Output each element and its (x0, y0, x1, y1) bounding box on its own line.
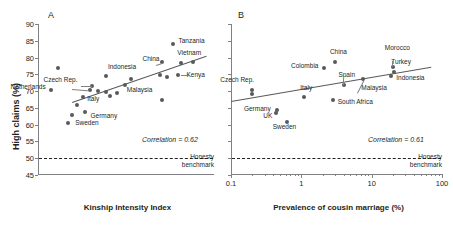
panel-b-x-axis (231, 174, 442, 175)
panel-b-x-tick-minor (426, 174, 427, 176)
panel-b-x-tick-minor (368, 174, 369, 176)
panel-a-y-axis (38, 24, 39, 175)
panel-a-y-tick (35, 58, 38, 59)
panel-b-point-label: Turkey (391, 58, 411, 65)
panel-a: A High claims (%) HonestybenchmarkCorrel… (0, 0, 226, 236)
panel-a-y-tick-label: 50 (18, 154, 34, 163)
panel-a-honesty-benchmark-label: Honestybenchmark (168, 153, 214, 169)
panel-b-x-tick-label: 0.1 (219, 179, 243, 188)
panel-a-y-tick (35, 91, 38, 92)
panel-b-point-label: Sweden (273, 123, 297, 130)
panel-a-y-tick (35, 158, 38, 159)
panel-a-leader-china (156, 63, 163, 66)
panel-a-y-tick (35, 141, 38, 142)
panel-a-plot-area: HonestybenchmarkCorrelation = 0.62Nether… (38, 24, 214, 175)
panel-a-point-label: Indonesia (108, 63, 136, 70)
panel-b-data-point (302, 95, 306, 99)
panel-b-trendline (231, 66, 431, 101)
panel-a-correlation-annotation: Correlation = 0.62 (142, 136, 198, 143)
panel-b-y-tick (228, 24, 231, 25)
panel-a-data-point (158, 73, 162, 77)
panel-a-y-tick (35, 41, 38, 42)
panel-b-x-tick (372, 174, 373, 178)
panel-b-x-axis-title: Prevalence of cousin marriage (%) (256, 203, 421, 212)
benchmark-label-line1: Honesty (168, 153, 214, 161)
panel-a-data-point (160, 98, 164, 102)
panel-b-y-tick (228, 158, 231, 159)
panel-a-data-point (75, 103, 79, 107)
panel-a-y-tick (35, 74, 38, 75)
panel-a-data-point (176, 73, 180, 77)
panel-b-point-label: Italy (300, 84, 312, 91)
benchmark-label-line1: Honesty (396, 153, 442, 161)
panel-b-x-tick-minor (393, 174, 394, 176)
benchmark-label-line2: benchmark (396, 161, 442, 169)
panel-a-point-label: China (142, 55, 159, 62)
panel-b-x-tick-minor (295, 174, 296, 176)
panel-a-data-point (83, 110, 87, 114)
panel-b-x-tick-minor (252, 174, 253, 176)
panel-a-point-label: Italy (87, 95, 99, 102)
panel-b-point-label: Germany (244, 105, 271, 112)
panel-a-y-tick (35, 108, 38, 109)
panel-b-x-tick-minor (290, 174, 291, 176)
panel-a-y-tick (35, 24, 38, 25)
panel-b-point-label: China (330, 48, 347, 55)
panel-a-data-point (49, 88, 53, 92)
panel-b-data-point (274, 111, 278, 115)
panel-b-x-tick-minor (335, 174, 336, 176)
panel-b-point-label: Malaysia (361, 84, 387, 91)
panel-b-data-point (331, 98, 335, 102)
panel-a-data-point (171, 42, 175, 46)
panel-a-leader-kenya (181, 75, 190, 76)
panel-b-x-tick-minor (361, 174, 362, 176)
panel-a-x-axis-title: Kinship Intensity Index (55, 203, 200, 212)
panel-b-x-tick-label: 10 (360, 179, 384, 188)
panel-b-y-tick (228, 91, 231, 92)
panel-b-x-tick-minor (356, 174, 357, 176)
panel-b-x-tick-minor (365, 174, 366, 176)
panel-a-data-point (104, 90, 108, 94)
panel-a-point-label: Czech Rep. (44, 76, 78, 83)
panel-b-x-tick-minor (439, 174, 440, 176)
panel-b-x-tick-minor (431, 174, 432, 176)
panel-b-y-axis (231, 24, 232, 175)
panel-b-honesty-benchmark-label: Honestybenchmark (396, 153, 442, 169)
panel-b-x-tick-minor (405, 174, 406, 176)
panel-b-point-label: Colombia (291, 62, 318, 69)
panel-a-data-point (115, 91, 119, 95)
panel-a-point-label: Tanzania (179, 37, 205, 44)
panel-a-data-point (165, 75, 169, 79)
panel-b-y-tick (228, 108, 231, 109)
panel-b-plot-area: HonestybenchmarkCorrelation = 0.61Czech … (231, 24, 442, 175)
panel-b-x-tick (231, 174, 232, 178)
panel-b-data-point (250, 92, 254, 96)
panel-b-x-tick-minor (298, 174, 299, 176)
panel-b-x-tick-minor (323, 174, 324, 176)
panel-a-data-point (108, 94, 112, 98)
panel-b-x-tick-minor (421, 174, 422, 176)
panel-b-point-label: UK (263, 112, 272, 119)
panel-b-y-tick (228, 41, 231, 42)
panel-b-point-label: Czech Rep. (220, 76, 254, 83)
panel-a-leader-czech (81, 86, 92, 87)
panel-b-point-label: Spain (338, 71, 355, 78)
panel-b-x-tick-minor (286, 174, 287, 176)
panel-b-x-tick-label: 100 (430, 179, 453, 188)
benchmark-label-line2: benchmark (168, 161, 214, 169)
panel-b-x-tick-label: 1 (289, 179, 313, 188)
panel-b-correlation-annotation: Correlation = 0.61 (368, 136, 424, 143)
panel-a-point-label: Vietnam (177, 49, 201, 56)
panel-a-y-tick-label: 70 (18, 87, 34, 96)
panel-a-data-point (66, 121, 70, 125)
panel-b-point-label: Morocco (385, 44, 410, 51)
panel-a-data-point (81, 95, 85, 99)
panel-a-y-tick-label: 55 (18, 137, 34, 146)
panel-a-data-point (56, 66, 60, 70)
panel-a-y-tick-label: 60 (18, 121, 34, 130)
panel-b-y-tick (228, 125, 231, 126)
panel-b-x-tick-minor (273, 174, 274, 176)
panel-a-letter: A (48, 10, 54, 20)
panel-a-y-tick (35, 125, 38, 126)
panel-b-data-point (333, 60, 337, 64)
